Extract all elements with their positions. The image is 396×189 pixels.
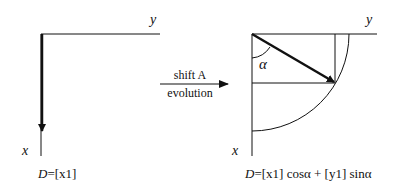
transition-bottom-label: evolution — [167, 86, 212, 100]
right-formula: D=[x1] cosα + [y1] sinα — [244, 166, 372, 181]
transition-arrow: shift A evolution — [160, 68, 228, 100]
angle-alpha-label: α — [259, 56, 268, 72]
diagram-canvas: y x D=[x1] shift A evolution α y x D=[x1… — [0, 0, 396, 189]
right-y-label: y — [364, 12, 373, 27]
left-panel: y x D=[x1] — [21, 12, 160, 181]
left-formula: D=[x1] — [37, 166, 76, 181]
right-x-label: x — [231, 143, 239, 158]
right-panel: α y x D=[x1] cosα + [y1] sinα — [231, 12, 377, 181]
transition-top-label: shift A — [174, 68, 207, 82]
left-x-label: x — [21, 143, 29, 158]
left-y-label: y — [148, 12, 157, 27]
